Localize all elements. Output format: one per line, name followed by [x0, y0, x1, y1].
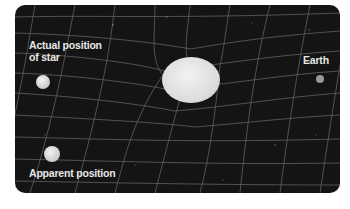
- earth-label: Earth: [303, 54, 329, 66]
- spacetime-grid-panel: Actual position of star Earth Apparent p…: [15, 5, 340, 193]
- sun-mass-sphere: [162, 57, 220, 103]
- actual-position-label-line2: of star: [29, 51, 60, 63]
- actual-star-dot: [36, 75, 50, 89]
- apparent-star-dot: [44, 146, 60, 162]
- actual-position-label-line1: Actual position: [29, 39, 102, 51]
- apparent-position-label: Apparent position: [29, 167, 115, 179]
- earth-dot: [316, 75, 324, 83]
